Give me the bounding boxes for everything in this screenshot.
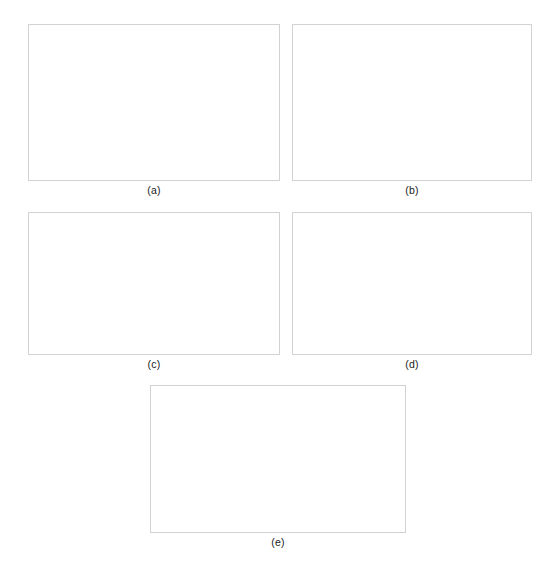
chart-panel-border-d (292, 212, 532, 355)
panel-caption-b: (b) (292, 184, 532, 196)
chart-panel-c: 0.0E+91.0E-92.0E-93.0E-94.0E-902468Arc l… (28, 212, 280, 355)
panel-caption-d: (d) (292, 358, 532, 370)
chart-panel-d: 0.0E+91.0E-92.0E-93.0E-94.0E-902468Arc l… (292, 212, 532, 355)
chart-panel-border-c (28, 212, 280, 355)
figure-multi-panel-charts: 02004006008001,0001,2001,40002468Arc len… (0, 0, 556, 567)
panel-caption-c: (c) (28, 358, 280, 370)
chart-panel-border-e (150, 385, 406, 533)
chart-panel-a: 02004006008001,0001,2001,40002468Arc len… (28, 24, 280, 181)
panel-caption-a: (a) (28, 184, 280, 196)
chart-panel-border-b (292, 24, 532, 181)
chart-panel-border-a (28, 24, 280, 181)
panel-caption-e: (e) (150, 536, 406, 548)
chart-panel-b: 76076577077578078579002468Arc length, μm… (292, 24, 532, 181)
chart-panel-e: -1.5E-2-1.0E-2-5.0E-30.0E+05.0E-31.0E-21… (150, 385, 406, 533)
